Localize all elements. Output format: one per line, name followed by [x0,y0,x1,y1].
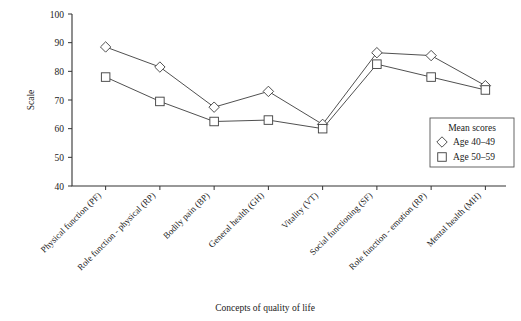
diamond-marker [263,86,273,96]
diamond-marker [100,42,110,52]
square-marker [481,86,490,95]
y-axis-tick-label: 70 [55,96,65,106]
series-1 [100,42,490,130]
x-axis-tick-label: Bodily pain (BP) [161,190,212,241]
square-marker [101,73,110,82]
y-axis-tick-label: 100 [50,10,65,20]
square-marker [264,116,273,125]
x-axis-tick-label: Physical function (PF) [39,190,103,254]
x-axis-title: Concepts of quality of life [215,303,315,313]
square-marker [438,153,447,162]
chart-figure: 405060708090100ScalePhysical function (P… [0,0,521,321]
y-axis-title: Scale [26,90,36,111]
y-axis-tick-label: 60 [55,124,65,134]
y-axis-tick-label: 50 [55,153,65,163]
legend-entry-label: Age 40–49 [453,137,495,147]
x-axis-tick-label: Vitality (VT) [280,190,320,230]
chart-legend: Mean scoresAge 40–49Age 50–59 [430,118,514,167]
square-marker [210,117,219,126]
diamond-marker [372,48,382,58]
legend-entry-label: Age 50–59 [453,152,495,162]
legend-title: Mean scores [448,123,496,133]
x-axis-tick-label: General health (GH) [206,190,265,249]
diamond-marker [155,62,165,72]
diamond-marker [209,102,219,112]
y-axis-tick-label: 90 [55,38,65,48]
y-axis-tick-label: 80 [55,67,65,77]
square-marker [318,124,327,133]
diamond-marker [426,50,436,60]
square-marker [427,73,436,82]
y-axis-tick-label: 40 [55,182,65,192]
line-chart-svg: 405060708090100ScalePhysical function (P… [0,0,521,321]
x-axis-tick-label: Mental health (MH) [424,190,482,248]
square-marker [156,97,165,106]
square-marker [373,60,382,69]
